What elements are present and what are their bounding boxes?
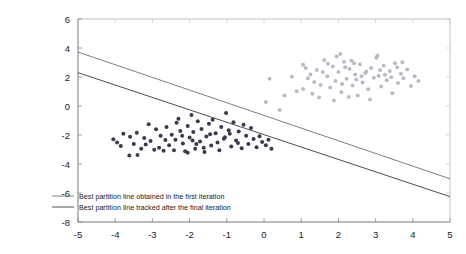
- data-point: [170, 133, 174, 137]
- data-point: [322, 58, 326, 62]
- data-point: [332, 98, 336, 102]
- data-point: [352, 61, 356, 65]
- data-point: [240, 146, 244, 150]
- data-point: [208, 132, 212, 136]
- data-point: [382, 64, 386, 68]
- data-point: [200, 127, 204, 131]
- data-point: [127, 154, 131, 158]
- data-point: [393, 61, 397, 65]
- data-point: [340, 82, 344, 86]
- data-point: [335, 54, 339, 58]
- data-point: [336, 70, 340, 74]
- data-point: [395, 65, 399, 69]
- data-point: [359, 74, 363, 78]
- data-point: [209, 143, 213, 147]
- data-point: [119, 144, 123, 148]
- scatter-plot-svg: -5-4-3-2-1012345 -8-6-4-20246 Best parti…: [0, 0, 466, 254]
- data-point: [309, 72, 313, 76]
- data-point: [375, 54, 379, 58]
- data-point: [191, 130, 195, 134]
- data-point: [333, 79, 337, 83]
- x-tick-label: 1: [299, 229, 304, 240]
- x-tick-label: 2: [336, 229, 341, 240]
- y-tick-label: 0: [65, 101, 70, 112]
- data-point: [290, 75, 294, 79]
- data-point: [147, 122, 151, 126]
- data-point: [260, 140, 264, 144]
- data-point: [282, 94, 286, 98]
- data-point: [246, 142, 250, 146]
- data-point: [331, 65, 335, 69]
- data-point: [115, 141, 119, 145]
- data-point: [157, 146, 161, 150]
- data-point: [167, 143, 171, 147]
- data-point: [321, 70, 325, 74]
- data-point: [325, 74, 329, 78]
- data-point: [368, 97, 372, 101]
- data-point: [186, 151, 190, 155]
- x-tick-label: -3: [148, 229, 156, 240]
- data-point: [227, 128, 231, 132]
- data-point: [264, 143, 268, 147]
- data-point: [347, 95, 351, 99]
- data-point: [413, 74, 417, 78]
- data-point: [339, 90, 343, 94]
- data-point: [181, 141, 185, 145]
- y-tick-label: 4: [65, 43, 70, 54]
- x-tick-label: -5: [74, 229, 82, 240]
- data-point: [159, 134, 163, 138]
- data-point: [252, 137, 256, 141]
- data-point: [310, 92, 314, 96]
- data-point: [356, 94, 360, 98]
- y-tick-label: -4: [62, 159, 70, 170]
- x-tick-label: 4: [410, 229, 415, 240]
- data-point: [400, 60, 404, 64]
- data-point: [202, 150, 206, 154]
- data-point: [317, 96, 321, 100]
- data-point: [111, 137, 115, 141]
- data-point: [135, 131, 139, 135]
- data-point: [176, 117, 180, 121]
- data-point: [326, 62, 330, 66]
- data-point: [348, 67, 352, 71]
- data-point: [378, 68, 382, 72]
- data-point: [242, 123, 246, 127]
- data-point: [388, 69, 392, 73]
- data-point: [163, 138, 167, 142]
- data-point: [364, 69, 368, 73]
- data-point: [338, 52, 342, 56]
- data-point: [379, 84, 383, 88]
- data-point: [216, 141, 220, 145]
- data-point: [237, 129, 241, 133]
- data-point: [144, 142, 148, 146]
- data-point: [396, 81, 400, 85]
- data-point: [172, 148, 176, 152]
- data-point: [175, 121, 179, 125]
- data-point: [132, 142, 136, 146]
- data-point: [244, 134, 248, 138]
- data-point: [264, 100, 268, 104]
- data-point: [136, 153, 140, 157]
- y-tick-label: -8: [62, 217, 70, 228]
- data-point: [315, 68, 319, 72]
- data-point: [312, 80, 316, 84]
- data-point: [266, 138, 270, 142]
- data-point: [178, 129, 182, 133]
- data-point: [194, 142, 198, 146]
- data-point: [204, 134, 208, 138]
- data-point: [258, 134, 262, 138]
- data-point: [214, 131, 218, 135]
- data-point: [173, 138, 177, 142]
- data-point: [369, 66, 373, 70]
- data-point: [399, 72, 403, 76]
- data-point: [354, 78, 358, 82]
- data-point: [207, 122, 211, 126]
- y-tick-label: -6: [62, 188, 70, 199]
- data-point: [345, 77, 349, 81]
- data-point: [236, 141, 240, 145]
- legend-label: Best partition line obtained in the firs…: [79, 192, 224, 201]
- data-point: [188, 136, 192, 140]
- data-point: [342, 60, 346, 64]
- data-point: [405, 67, 409, 71]
- data-point: [402, 76, 406, 80]
